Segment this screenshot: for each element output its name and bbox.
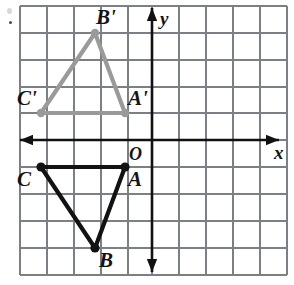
vertex-label-a-prime: A' xyxy=(128,88,148,109)
geometry-figure: A' B' C' A B C x y O xyxy=(0,0,294,285)
vertex-label-c-prime: C' xyxy=(17,88,37,109)
origin-label: O xyxy=(129,145,142,163)
vertex-label-c: C xyxy=(17,169,31,190)
x-axis-label: x xyxy=(274,143,284,162)
axis-lines xyxy=(20,8,279,272)
vertex-label-b-prime: B' xyxy=(96,7,116,28)
vertex-label-b: B xyxy=(99,250,113,271)
y-axis-label: y xyxy=(160,9,168,28)
coordinate-plane-svg xyxy=(0,0,294,285)
vertex-label-a: A xyxy=(128,169,142,190)
